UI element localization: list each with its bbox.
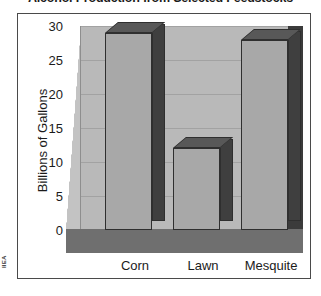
bar-lawn (173, 148, 220, 230)
plot-area (66, 26, 303, 253)
y-tick-label: 15 (38, 122, 63, 135)
y-tick-label: 30 (38, 20, 63, 33)
plot-left-wall (66, 26, 81, 230)
y-tick-label: 0 (38, 224, 63, 237)
bar-mesquite (241, 40, 288, 230)
y-tick-label: 5 (38, 190, 63, 203)
bar-side-face (288, 31, 301, 221)
bar-front-face (173, 148, 220, 230)
x-axis-tick-labels: CornLawnMesquite (66, 258, 306, 278)
y-tick-label: 20 (38, 88, 63, 101)
bar-front-face (105, 33, 152, 230)
y-tick-label: 10 (38, 156, 63, 169)
y-tick-label: 25 (38, 54, 63, 67)
x-tick-label-lawn: Lawn (187, 258, 218, 273)
plot-floor (66, 229, 303, 253)
x-tick-label-mesquite: Mesquite (245, 258, 298, 273)
y-axis-tick-labels: 302520151050 (38, 24, 63, 254)
x-tick-label-corn: Corn (121, 258, 149, 273)
bar-side-face (220, 139, 233, 221)
bar-corn (105, 33, 152, 230)
bar-front-face (241, 40, 288, 230)
source-credit-label: IIEA (1, 238, 11, 268)
bar-side-face (152, 24, 165, 221)
chart-title: Alcohol Production from Selected Feedsto… (0, 0, 321, 7)
